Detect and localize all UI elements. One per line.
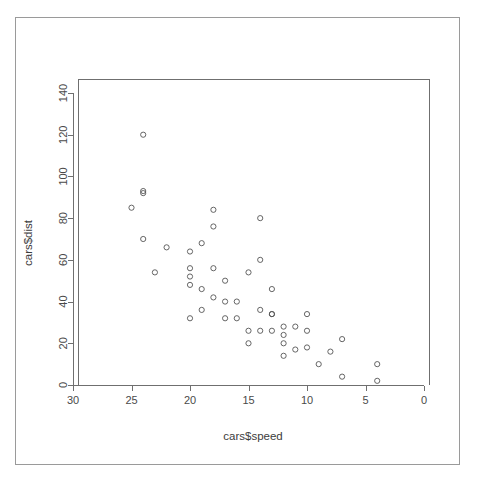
x-axis: 302520151050 — [67, 386, 427, 407]
screenshot-root: 020406080100120140 302520151050 cars$spe… — [0, 0, 478, 482]
data-point — [223, 278, 228, 283]
data-point — [340, 374, 345, 379]
data-point — [246, 270, 251, 275]
y-axis-tick-label: 60 — [57, 254, 69, 266]
data-point — [293, 324, 298, 329]
y-axis-tick-label: 120 — [57, 126, 69, 144]
data-point — [304, 311, 309, 316]
data-point — [234, 299, 239, 304]
data-point — [258, 328, 263, 333]
data-point — [211, 266, 216, 271]
data-point — [211, 224, 216, 229]
data-point — [234, 316, 239, 321]
y-axis-title: cars$dist — [22, 219, 34, 266]
data-point — [246, 341, 251, 346]
data-point — [223, 316, 228, 321]
data-point — [281, 341, 286, 346]
data-point — [141, 236, 146, 241]
scatter-plot: 020406080100120140 302520151050 cars$spe… — [0, 0, 478, 482]
data-point — [375, 362, 380, 367]
y-axis-tick-label: 100 — [57, 167, 69, 185]
x-axis-tick-label: 0 — [421, 394, 427, 406]
data-point — [199, 241, 204, 246]
data-point — [258, 216, 263, 221]
data-point — [269, 311, 274, 316]
data-point — [199, 307, 204, 312]
x-axis-title: cars$speed — [223, 430, 282, 442]
data-point — [304, 328, 309, 333]
y-axis-tick-label: 140 — [57, 84, 69, 102]
data-point — [304, 345, 309, 350]
data-point — [187, 249, 192, 254]
data-point — [375, 378, 380, 383]
data-point — [187, 266, 192, 271]
data-point — [281, 324, 286, 329]
data-point — [187, 316, 192, 321]
x-axis-tick-label: 30 — [67, 394, 79, 406]
data-point-layer — [129, 132, 380, 383]
data-point — [223, 299, 228, 304]
y-axis-tick-label: 40 — [57, 295, 69, 307]
x-axis-tick-label: 15 — [242, 394, 254, 406]
data-point — [281, 353, 286, 358]
data-point — [152, 270, 157, 275]
data-point — [258, 257, 263, 262]
data-point — [141, 132, 146, 137]
data-point — [211, 207, 216, 212]
x-axis-tick-label: 20 — [184, 394, 196, 406]
data-point — [187, 282, 192, 287]
y-axis-tick-label: 80 — [57, 212, 69, 224]
y-axis-tick-label: 0 — [57, 382, 69, 388]
data-point — [340, 337, 345, 342]
data-point — [258, 307, 263, 312]
y-axis: 020406080100120140 — [57, 84, 74, 388]
data-point — [187, 274, 192, 279]
x-axis-tick-label: 5 — [362, 394, 368, 406]
data-point — [211, 295, 216, 300]
data-point — [293, 347, 298, 352]
data-point — [316, 362, 321, 367]
x-axis-tick-label: 25 — [125, 394, 137, 406]
data-point — [281, 332, 286, 337]
data-point — [269, 286, 274, 291]
y-axis-tick-label: 20 — [57, 337, 69, 349]
data-point — [164, 245, 169, 250]
data-point — [246, 328, 251, 333]
x-axis-tick-label: 10 — [301, 394, 313, 406]
plot-region-box — [78, 79, 429, 385]
data-point — [269, 328, 274, 333]
data-point — [199, 286, 204, 291]
data-point — [129, 205, 134, 210]
data-point — [328, 349, 333, 354]
